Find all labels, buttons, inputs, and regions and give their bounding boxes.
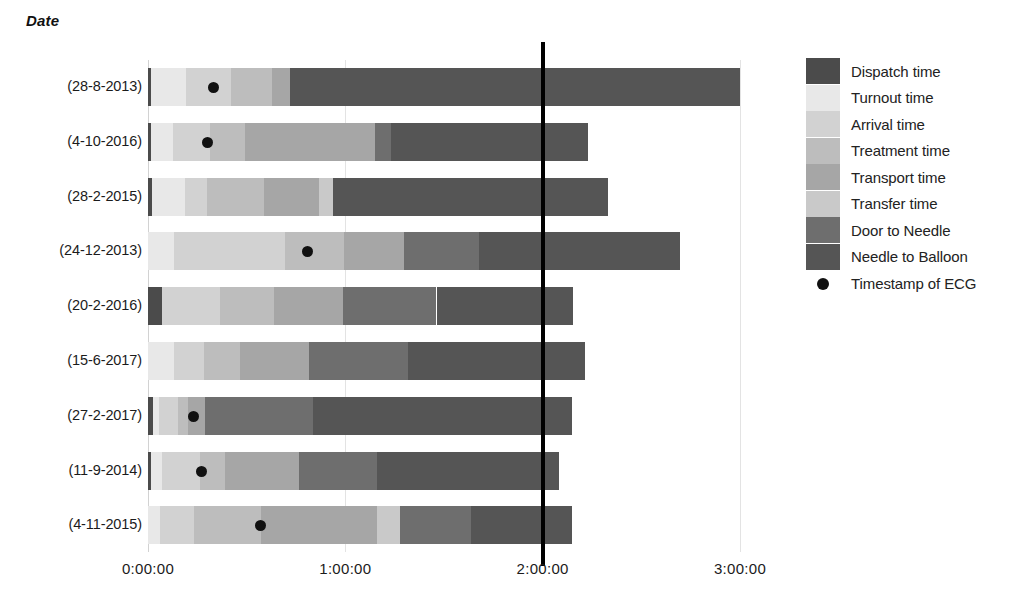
bar-segment-arrival-time: [185, 178, 207, 216]
legend-item[interactable]: Turnout time: [806, 85, 1014, 112]
legend-item[interactable]: Needle to Balloon: [806, 244, 1014, 271]
bar-row[interactable]: [148, 68, 740, 106]
bar-segment-treatment-time: [207, 178, 264, 216]
bar-segment-door-to-needle: [400, 506, 471, 544]
bar-segment-arrival-time: [174, 232, 285, 270]
bar-segment-treatment-time: [285, 232, 344, 270]
legend-label: Treatment time: [851, 142, 950, 159]
bar-segment-treatment-time: [210, 123, 246, 161]
legend-item[interactable]: Transfer time: [806, 191, 1014, 218]
ecg-timestamp-marker: [208, 82, 219, 93]
y-axis-label: (15-6-2017): [2, 352, 142, 368]
bar-row[interactable]: [148, 232, 740, 270]
bar-row[interactable]: [148, 287, 740, 325]
bar-segment-transfer-time: [319, 178, 334, 216]
stacked-bar-chart-figure: Date (28-8-2013)(4-10-2016)(28-2-2015)(2…: [0, 0, 1018, 608]
bar-segment-treatment-time: [231, 68, 272, 106]
bar-row[interactable]: [148, 342, 740, 380]
ecg-timestamp-marker: [202, 137, 213, 148]
bar-segment-transport-time: [225, 452, 299, 490]
bar-segment-transport-time: [272, 68, 290, 106]
legend-swatch-needle-to-balloon: [806, 244, 840, 270]
ecg-dot-icon: [806, 270, 840, 296]
bar-segment-treatment-time: [204, 342, 241, 380]
bar-segment-needle-to-balloon: [333, 178, 607, 216]
legend-swatch-transport-time: [806, 164, 840, 190]
bar-segment-needle-to-balloon: [479, 232, 680, 270]
bar-segment-turnout-time: [148, 232, 174, 270]
bar-segment-transport-time: [245, 123, 374, 161]
bar-segment-needle-to-balloon: [471, 506, 573, 544]
plot-area: [148, 60, 740, 552]
bar-segment-transfer-time: [377, 506, 400, 544]
bar-segment-turnout-time: [148, 506, 160, 544]
legend-item[interactable]: Arrival time: [806, 111, 1014, 138]
bar-segment-treatment-time: [220, 287, 273, 325]
bar-segment-door-to-needle: [375, 123, 391, 161]
bar-segment-door-to-needle: [205, 397, 313, 435]
ecg-timestamp-marker: [196, 466, 207, 477]
y-axis-label: (28-8-2013): [2, 78, 142, 94]
x-axis-tick-label: 0:00:00: [122, 560, 174, 577]
legend-swatch-transfer-time: [806, 191, 840, 217]
bar-segment-transport-time: [240, 342, 309, 380]
legend-item[interactable]: Transport time: [806, 164, 1014, 191]
bar-segment-transport-time: [264, 178, 318, 216]
x-axis-tick-label: 1:00:00: [319, 560, 371, 577]
bar-segment-arrival-time: [162, 287, 220, 325]
bar-segment-door-to-needle: [309, 342, 408, 380]
bar-segment-arrival-time: [160, 506, 195, 544]
x-axis-tick-label: 3:00:00: [714, 560, 766, 577]
bar-segment-needle-to-balloon: [391, 123, 588, 161]
bar-segment-treatment-time: [194, 506, 261, 544]
bar-row[interactable]: [148, 178, 740, 216]
bar-row[interactable]: [148, 506, 740, 544]
ecg-timestamp-marker: [188, 411, 199, 422]
bar-segment-dispatch-time: [148, 287, 162, 325]
legend-swatch-treatment-time: [806, 138, 840, 164]
bar-segment-needle-to-balloon: [313, 397, 572, 435]
x-axis-tick-label: 2:00:00: [517, 560, 569, 577]
legend-swatch-door-to-needle: [806, 217, 840, 243]
chart-legend: Dispatch timeTurnout timeArrival timeTre…: [806, 58, 1014, 297]
bar-segment-needle-to-balloon: [377, 452, 559, 490]
bar-row[interactable]: [148, 452, 740, 490]
legend-label: Dispatch time: [851, 63, 941, 80]
bar-segment-transport-time: [344, 232, 404, 270]
y-axis-title: Date: [26, 12, 59, 29]
x-axis-label-group: 0:00:001:00:002:00:003:00:00: [0, 560, 1018, 590]
legend-item[interactable]: Dispatch time: [806, 58, 1014, 85]
bar-row[interactable]: [148, 397, 740, 435]
bar-segment-turnout-time: [151, 123, 173, 161]
legend-label: Transfer time: [851, 195, 938, 212]
y-axis-label: (28-2-2015): [2, 188, 142, 204]
bar-segment-door-to-needle: [299, 452, 377, 490]
legend-label: Timestamp of ECG: [851, 275, 976, 292]
legend-label: Turnout time: [851, 89, 933, 106]
y-axis-label: (4-10-2016): [2, 133, 142, 149]
bar-segment-needle-to-balloon: [408, 342, 586, 380]
legend-label: Door to Needle: [851, 222, 951, 239]
bar-segment-arrival-time: [162, 452, 199, 490]
bar-row[interactable]: [148, 123, 740, 161]
bar-segment-arrival-time: [174, 342, 204, 380]
legend-item[interactable]: Door to Needle: [806, 217, 1014, 244]
y-axis-label-group: (28-8-2013)(4-10-2016)(28-2-2015)(24-12-…: [0, 60, 142, 552]
legend-item[interactable]: Timestamp of ECG: [806, 270, 1014, 297]
legend-label: Transport time: [851, 169, 946, 186]
gridline-3:00:00: [740, 60, 741, 552]
legend-label: Needle to Balloon: [851, 248, 968, 265]
benchmark-line-2-hours: [541, 42, 545, 566]
legend-swatch-dispatch-time: [806, 58, 840, 84]
bar-segment-turnout-time: [151, 452, 162, 490]
bar-segment-door-to-needle: [343, 287, 437, 325]
bar-segment-treatment-time: [178, 397, 189, 435]
bar-segment-needle-to-balloon: [437, 287, 573, 325]
bar-segment-transport-time: [261, 506, 376, 544]
bar-segment-door-to-needle: [404, 232, 479, 270]
y-axis-label: (11-9-2014): [2, 462, 142, 478]
y-axis-label: (20-2-2016): [2, 297, 142, 313]
y-axis-label: (4-11-2015): [2, 516, 142, 532]
legend-swatch-arrival-time: [806, 111, 840, 137]
legend-item[interactable]: Treatment time: [806, 138, 1014, 165]
